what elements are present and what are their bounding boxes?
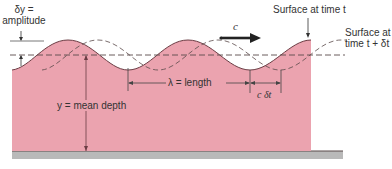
surface-time-t-label: Surface at time t xyxy=(273,4,346,15)
surface-t-dt-line1: Surface at xyxy=(345,27,391,38)
arrowhead-icon xyxy=(306,33,310,38)
amplitude-label-line2: amplitude xyxy=(2,15,46,26)
amplitude-label-line1: δy = xyxy=(2,4,46,15)
surface-time-t-plus-dt-label: Surface at time t + δt xyxy=(345,27,391,49)
displacement-label: c δt xyxy=(257,89,271,100)
wave-speed-label: c xyxy=(233,21,238,32)
arrowhead-icon xyxy=(19,55,23,59)
wavelength-label: λ = length xyxy=(168,77,212,88)
mean-depth-label: y = mean depth xyxy=(56,100,127,111)
arrowhead-icon xyxy=(19,37,23,41)
surface-t-dt-line2: time t + δt xyxy=(345,38,391,49)
channel-bottom xyxy=(12,151,343,159)
arrowhead-icon xyxy=(250,33,261,43)
amplitude-label: δy = amplitude xyxy=(2,4,46,26)
